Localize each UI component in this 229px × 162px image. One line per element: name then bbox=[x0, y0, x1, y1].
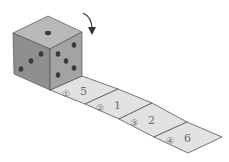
pip-left-1 bbox=[19, 66, 24, 72]
cell-2-index: ② bbox=[96, 103, 104, 113]
pip-left-3 bbox=[39, 51, 44, 57]
dice-diagram: ① 5 ② 1 ③ 2 ④ 6 bbox=[0, 0, 229, 162]
cell-4-value: 6 bbox=[184, 132, 191, 145]
pip-right-1 bbox=[56, 51, 61, 57]
cell-3-value: 2 bbox=[148, 114, 155, 127]
cell-4-index: ④ bbox=[166, 136, 174, 146]
pip-top-center bbox=[45, 31, 51, 35]
pip-right-4 bbox=[56, 72, 61, 78]
die bbox=[13, 16, 82, 90]
pip-right-5 bbox=[72, 65, 77, 71]
cell-strip bbox=[50, 76, 222, 153]
pip-right-3 bbox=[64, 58, 69, 64]
cell-1-value: 5 bbox=[80, 85, 87, 98]
pip-right-2 bbox=[72, 42, 77, 48]
cell-2-value: 1 bbox=[114, 99, 121, 112]
curved-arrow-down-icon bbox=[83, 13, 96, 35]
cell-1-index: ① bbox=[62, 89, 70, 99]
pip-left-2 bbox=[29, 58, 34, 64]
cell-3-index: ③ bbox=[130, 118, 138, 128]
